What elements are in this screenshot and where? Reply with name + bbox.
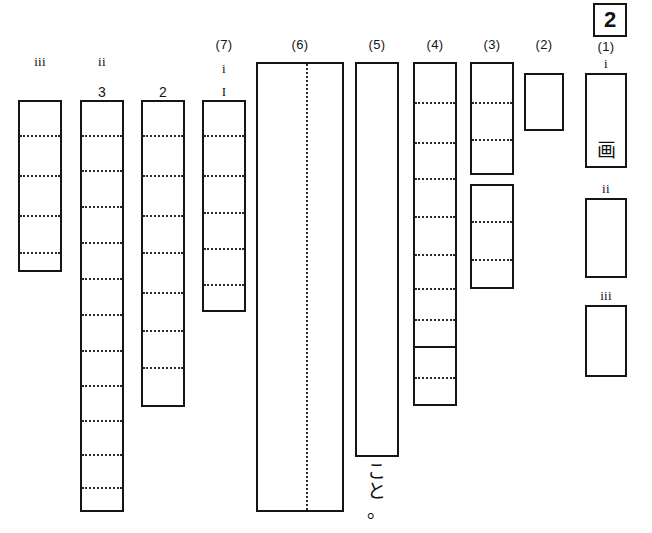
rule-solid: [415, 346, 455, 348]
strip-col-7: [202, 100, 246, 312]
rule-dotted: [82, 242, 122, 244]
rule-dotted: [82, 314, 122, 316]
rule-dotted: [472, 102, 512, 104]
rule-dotted: [415, 102, 455, 104]
caption-char-2: と: [367, 482, 386, 502]
rule-dotted: [82, 385, 122, 387]
rule-dotted: [82, 487, 122, 489]
strip-col-iii-left: [18, 100, 62, 272]
rule-dotted: [143, 175, 183, 177]
strip-col-2: [141, 100, 185, 407]
rule-dotted: [415, 254, 455, 256]
rule-dotted: [82, 135, 122, 137]
rule-dotted: [204, 248, 244, 250]
label-col-2-paren: (2): [524, 38, 564, 51]
rule-dotted: [143, 215, 183, 217]
label-col-7-top: i: [202, 62, 246, 75]
label-col-1-iii: iii: [585, 289, 627, 302]
rule-dotted: [415, 178, 455, 180]
label-col-6-paren: (6): [256, 38, 344, 51]
caption-char-3: 。: [367, 502, 386, 522]
section-marker-box: 2: [593, 3, 627, 37]
strip-col-1-iii: [585, 305, 627, 377]
label-col-ii-3-top: ii: [80, 55, 124, 68]
strip-col-ii-3: [80, 100, 124, 512]
caption-char-1: こ: [367, 462, 386, 482]
rule-dotted: [472, 259, 512, 261]
strip-col-4: [413, 62, 457, 406]
rule-dotted: [82, 350, 122, 352]
label-col-1-paren: (1): [585, 40, 627, 53]
strip-col-3-lower: [470, 184, 514, 289]
label-col-iii-left-top: iii: [18, 55, 62, 68]
rule-dotted: [415, 288, 455, 290]
rule-dotted: [82, 170, 122, 172]
rule-dotted: [204, 175, 244, 177]
strip-col-3-upper: [470, 62, 514, 175]
label-col-4-paren: (4): [413, 38, 457, 51]
rule-dotted: [143, 135, 183, 137]
rule-dotted-vertical: [306, 64, 308, 510]
rule-dotted: [143, 252, 183, 254]
rule-dotted: [204, 135, 244, 137]
strip-col-2-single: [524, 73, 564, 131]
rule-dotted: [204, 284, 244, 286]
rule-dotted: [472, 221, 512, 223]
rule-dotted: [20, 175, 60, 177]
rule-dotted: [82, 278, 122, 280]
label-col-2-num: 2: [141, 85, 185, 99]
caption-col-5: こ と 。: [362, 462, 390, 522]
label-col-7-paren: (7): [202, 38, 246, 51]
strip-col-6: [256, 62, 344, 512]
figure-canvas: 2 iii ii 3 2 (7) i I (6) (5) (4) (3) (2)…: [0, 0, 652, 533]
label-col-3-paren: (3): [470, 38, 514, 51]
label-col-5-paren: (5): [355, 38, 399, 51]
strip-col-5: [355, 62, 399, 457]
rule-dotted: [82, 420, 122, 422]
rule-dotted: [20, 215, 60, 217]
rule-dotted: [143, 367, 183, 369]
strip-col-1-i: 画: [585, 73, 627, 168]
label-col-ii-3-num: 3: [80, 85, 124, 99]
rule-dotted: [415, 216, 455, 218]
rule-dotted: [20, 252, 60, 254]
rule-dotted: [82, 454, 122, 456]
rule-dotted: [204, 212, 244, 214]
section-marker-label: 2: [604, 9, 616, 31]
rule-dotted: [415, 377, 455, 379]
rule-dotted: [415, 142, 455, 144]
label-col-1-ii: ii: [585, 182, 627, 195]
rule-dotted: [82, 206, 122, 208]
rule-dotted: [20, 135, 60, 137]
label-col-1-i: i: [585, 57, 627, 70]
strip-col-1-ii: [585, 198, 627, 278]
rule-dotted: [472, 139, 512, 141]
glyph-kanji-ga: 画: [587, 141, 625, 160]
rule-dotted: [143, 330, 183, 332]
rule-dotted: [143, 292, 183, 294]
label-col-7-num: I: [202, 85, 246, 98]
rule-dotted: [415, 319, 455, 321]
